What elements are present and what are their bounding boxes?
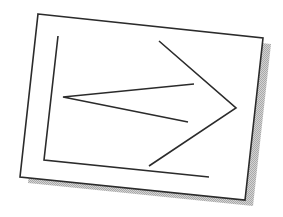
card-outline [20,14,263,200]
arrow-card-illustration [0,0,283,217]
figure-canvas [0,0,283,217]
